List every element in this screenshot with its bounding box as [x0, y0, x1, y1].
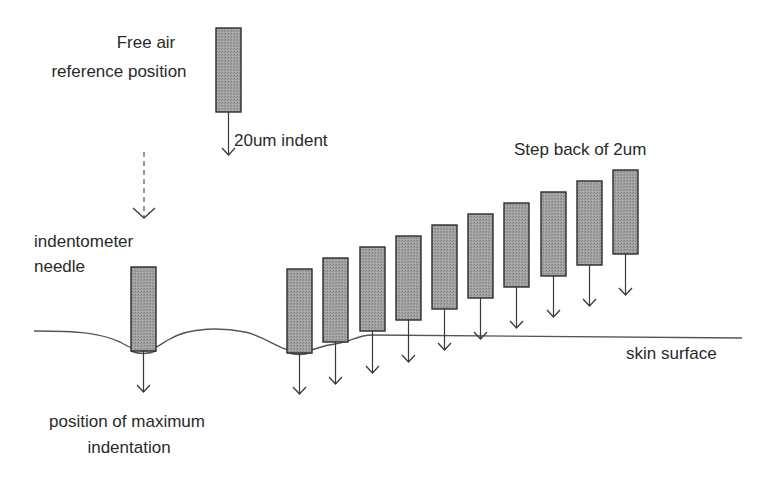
needle-body — [613, 170, 638, 254]
needle-body — [396, 236, 421, 320]
needle-body — [541, 192, 566, 276]
needle-label-line2: needle — [34, 257, 85, 276]
max-indentation-label-line2: indentation — [87, 438, 170, 457]
step-back-needles — [287, 170, 638, 394]
needle-body — [432, 225, 457, 309]
free-air-label-line1: Free air — [117, 33, 176, 52]
step-needle-7 — [504, 203, 529, 328]
needle-body — [468, 214, 493, 298]
needle-body — [504, 203, 529, 287]
needle-body — [577, 181, 602, 265]
needle-body — [360, 247, 385, 331]
step-back-label: Step back of 2um — [514, 140, 646, 159]
needle-body — [287, 269, 312, 353]
free-air-label-line2: reference position — [51, 62, 186, 81]
reference-needle — [216, 28, 241, 112]
indent-label: 20um indent — [234, 131, 328, 150]
step-needle-4 — [396, 236, 421, 362]
needle-body — [323, 258, 348, 342]
needle-label-line1: indentometer — [34, 232, 134, 251]
step-needle-6 — [468, 214, 493, 339]
max-indentation-label-line1: position of maximum — [49, 412, 205, 431]
indentometer-needle — [131, 267, 156, 351]
step-needle-1 — [287, 269, 312, 394]
step-needle-9 — [577, 181, 602, 306]
step-needle-5 — [432, 225, 457, 350]
indentation-diagram: Free air reference position 20um indent … — [0, 0, 768, 485]
step-needle-2 — [323, 258, 348, 384]
skin-surface-label: skin surface — [626, 344, 717, 363]
step-needle-3 — [360, 247, 385, 373]
step-needle-8 — [541, 192, 566, 317]
step-needle-10 — [613, 170, 638, 295]
